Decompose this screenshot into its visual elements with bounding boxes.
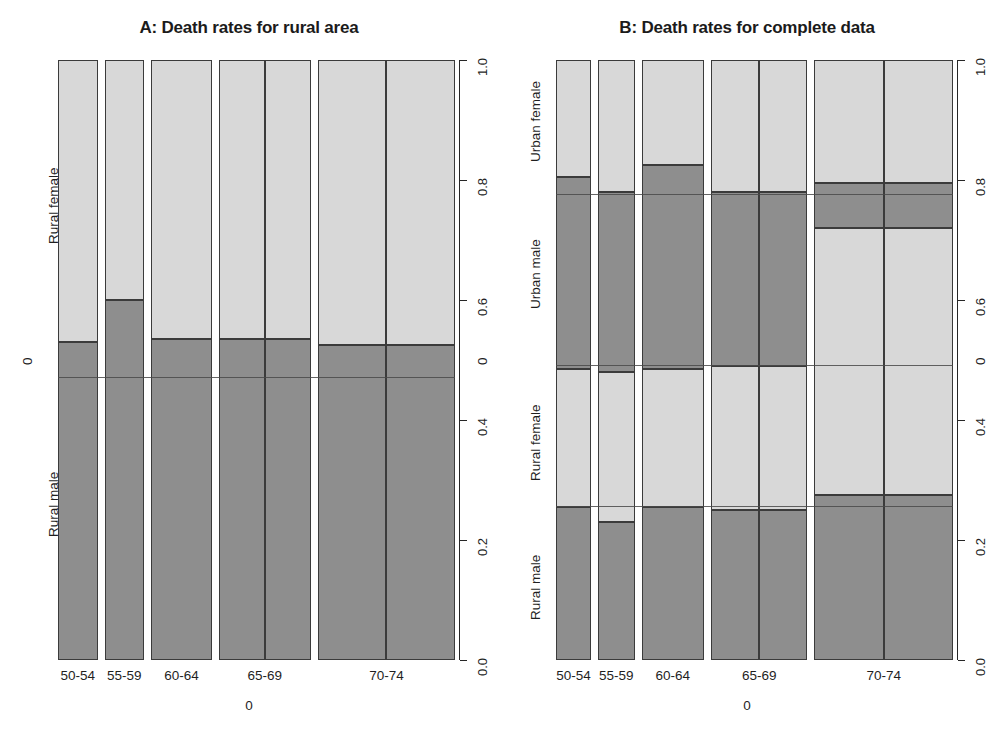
- y-axis-tick: [460, 660, 467, 661]
- mosaic-tile-urban-female: [556, 60, 591, 177]
- mosaic-tile-rural-male: [386, 345, 455, 660]
- mosaic-tile-rural-female: [814, 228, 883, 495]
- y-axis-tick: [460, 180, 467, 181]
- y-axis-tick: [958, 60, 965, 61]
- mosaic-subcolumn: [598, 60, 635, 660]
- y-axis-tick-label: 1.0: [475, 58, 490, 76]
- y-axis-tick-label: 0.0: [973, 658, 988, 676]
- panel-b-title: B: Death rates for complete data: [498, 18, 996, 38]
- y-axis-tick-label: 1.0: [973, 58, 988, 76]
- y-axis-tick-label: 0.2: [475, 538, 490, 556]
- mosaic-subcolumn: [386, 60, 455, 660]
- y-axis-tick-label: 0.4: [475, 418, 490, 436]
- y-axis-tick: [958, 300, 965, 301]
- mosaic-subcolumn: [151, 60, 212, 660]
- y-axis-line: [957, 60, 958, 660]
- mosaic-tile-rural-female: [265, 60, 311, 339]
- y-axis-tick-label: 0.6: [475, 298, 490, 316]
- mosaic-reference-line: [556, 365, 953, 366]
- x-axis-title: 0: [0, 698, 498, 713]
- row-label-urban-male: Urban male: [528, 239, 543, 309]
- panel-b-plot-area: [556, 60, 953, 660]
- mosaic-tile-rural-female: [219, 60, 265, 339]
- mosaic-subcolumn: [884, 60, 953, 660]
- mosaic-tile-urban-male: [556, 177, 591, 369]
- mosaic-tile-urban-female: [759, 60, 807, 192]
- mosaic-tile-rural-male: [642, 507, 705, 660]
- mosaic-tile-rural-female: [386, 60, 455, 345]
- mosaic-subcolumn: [58, 60, 98, 660]
- x-axis-category-label: 60-64: [147, 668, 215, 683]
- mosaic-column: [151, 60, 212, 660]
- mosaic-subcolumn: [318, 60, 387, 660]
- mosaic-tile-rural-male: [598, 522, 635, 660]
- mosaic-tile-urban-male: [884, 183, 953, 228]
- mosaic-tile-rural-female: [711, 366, 759, 510]
- row-label-rural-female: Rural female: [528, 405, 543, 482]
- x-axis-category-label: 70-74: [352, 668, 420, 683]
- x-axis-title: 0: [498, 698, 996, 713]
- mosaic-subcolumn: [711, 60, 759, 660]
- x-axis-category-label: 65-69: [231, 668, 299, 683]
- mosaic-tile-rural-female: [759, 366, 807, 510]
- mosaic-column: [105, 60, 145, 660]
- y-axis-line: [459, 60, 460, 660]
- mosaic-subcolumn: [759, 60, 807, 660]
- mosaic-tile-rural-male: [759, 510, 807, 660]
- y-axis-tick-label: 0.8: [973, 178, 988, 196]
- mosaic-tile-rural-female: [318, 60, 387, 345]
- mosaic-tile-rural-male: [884, 495, 953, 660]
- mosaic-subcolumn: [219, 60, 265, 660]
- mosaic-tile-urban-female: [642, 60, 705, 165]
- panel-a: A: Death rates for rural area 0.00.20.40…: [0, 0, 498, 735]
- y-axis-tick-label: 0.6: [973, 298, 988, 316]
- left-axis-zero-label: 0: [20, 357, 35, 365]
- x-axis-category-label: 70-74: [850, 668, 918, 683]
- row-label-rural-male: Rural male: [528, 554, 543, 619]
- panel-b: B: Death rates for complete data 0.00.20…: [498, 0, 996, 735]
- y-axis-title: 0: [973, 357, 988, 365]
- y-axis-tick: [958, 420, 965, 421]
- mosaic-tile-urban-male: [642, 165, 705, 369]
- mosaic-tile-rural-male: [318, 345, 387, 660]
- mosaic-tile-rural-female: [884, 228, 953, 495]
- mosaic-subcolumn: [556, 60, 591, 660]
- row-label-rural-female: Rural female: [46, 168, 61, 245]
- mosaic-tile-rural-female: [105, 60, 145, 300]
- mosaic-tile-urban-male: [711, 192, 759, 366]
- y-axis-tick: [460, 420, 467, 421]
- mosaic-subcolumn: [814, 60, 883, 660]
- mosaic-column: [219, 60, 311, 660]
- x-axis-category-label: 60-64: [639, 668, 707, 683]
- y-axis-tick: [958, 660, 965, 661]
- panel-a-title: A: Death rates for rural area: [0, 18, 498, 38]
- mosaic-tile-rural-male: [711, 510, 759, 660]
- panel-a-plot-area: [58, 60, 455, 660]
- mosaic-tile-rural-female: [151, 60, 212, 339]
- mosaic-tile-rural-male: [265, 339, 311, 660]
- mosaic-tile-rural-male: [151, 339, 212, 660]
- y-axis-tick-label: 0.0: [475, 658, 490, 676]
- y-axis-tick: [958, 180, 965, 181]
- mosaic-tile-urban-male: [759, 192, 807, 366]
- mosaic-tile-rural-male: [105, 300, 145, 660]
- y-axis-tick: [958, 540, 965, 541]
- y-axis-tick-label: 0.2: [973, 538, 988, 556]
- mosaic-tile-rural-male: [219, 339, 265, 660]
- mosaic-tile-rural-female: [556, 369, 591, 507]
- mosaic-column: [642, 60, 705, 660]
- mosaic-figure: A: Death rates for rural area 0.00.20.40…: [0, 0, 996, 735]
- mosaic-tile-urban-female: [598, 60, 635, 192]
- y-axis-title: 0: [475, 357, 490, 365]
- mosaic-subcolumn: [642, 60, 705, 660]
- mosaic-tile-urban-male: [598, 192, 635, 372]
- mosaic-tile-urban-female: [711, 60, 759, 192]
- x-axis-category-label: 65-69: [725, 668, 793, 683]
- mosaic-subcolumn: [265, 60, 311, 660]
- mosaic-tile-rural-female: [598, 372, 635, 522]
- row-label-urban-female: Urban female: [528, 81, 543, 162]
- y-axis-tick-label: 0.8: [475, 178, 490, 196]
- mosaic-column: [556, 60, 591, 660]
- mosaic-reference-line: [58, 377, 455, 378]
- mosaic-column: [318, 60, 455, 660]
